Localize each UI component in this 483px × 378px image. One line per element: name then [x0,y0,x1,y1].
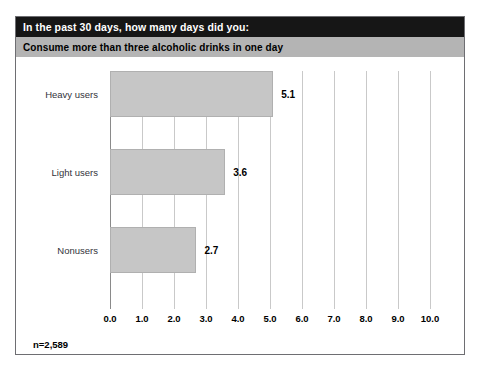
sample-size-note: n=2,589 [33,339,68,350]
chart-frame: In the past 30 days, how many days did y… [15,16,465,355]
chart-title-suffix: did you: [204,21,249,33]
chart-title-emphasis: days [180,21,204,33]
chart-title-prefix: In the past 30 days, how many [23,21,180,33]
x-tick-label: 7.0 [327,313,340,324]
x-tick-label: 4.0 [231,313,244,324]
x-tick-label: 5.0 [263,313,276,324]
x-tick-label: 1.0 [135,313,148,324]
bar[interactable] [110,149,225,195]
x-tick-label: 9.0 [391,313,404,324]
plot-area: Heavy users5.1Light users3.6Nonusers2.7 … [16,57,464,355]
x-tick-label: 0.0 [103,313,116,324]
chart-subtitle-bar: Consume more than three alcoholic drinks… [16,37,464,57]
bar-row: Light users3.6 [16,149,464,195]
category-label: Nonusers [16,245,98,256]
x-tick-label: 10.0 [421,313,440,324]
bar-value-label: 3.6 [233,167,247,178]
bar[interactable] [110,227,196,273]
x-axis-tick-labels: 0.01.02.03.04.05.06.07.08.09.010.0 [16,313,464,329]
x-tick-label: 2.0 [167,313,180,324]
bar-row: Nonusers2.7 [16,227,464,273]
bar-value-label: 5.1 [281,89,295,100]
bar-row: Heavy users5.1 [16,71,464,117]
category-label: Heavy users [16,89,98,100]
category-label: Light users [16,167,98,178]
bar[interactable] [110,71,273,117]
x-tick-label: 8.0 [359,313,372,324]
x-tick-label: 6.0 [295,313,308,324]
chart-title: In the past 30 days, how many days did y… [16,21,249,33]
chart-title-bar: In the past 30 days, how many days did y… [16,17,464,37]
bar-value-label: 2.7 [204,245,218,256]
x-tick-label: 3.0 [199,313,212,324]
chart-subtitle: Consume more than three alcoholic drinks… [16,42,283,53]
